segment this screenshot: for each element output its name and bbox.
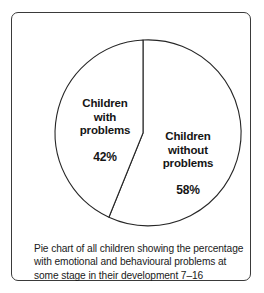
- pie-label-children-without-problems: Children without problems: [140, 130, 236, 171]
- figure-frame: Children with problems 42% Children with…: [11, 12, 251, 281]
- pie-label-line: problems: [59, 124, 151, 138]
- pie-percent-children-without-problems: 58%: [140, 184, 236, 198]
- pie-label-line: Children: [140, 130, 236, 144]
- figure-caption-line: with emotional and behavioural problems …: [34, 255, 252, 268]
- figure-caption-line: Pie chart of all children showing the pe…: [34, 242, 252, 255]
- pie-label-line: with: [59, 111, 151, 125]
- figure-caption-line: some stage in their development 7–16: [34, 269, 252, 282]
- pie-label-children-with-problems: Children with problems: [59, 97, 151, 138]
- pie-label-line: problems: [140, 157, 236, 171]
- pie-chart: Children with problems 42% Children with…: [12, 13, 264, 238]
- pie-percent-children-with-problems: 42%: [59, 151, 151, 165]
- pie-label-line: Children: [59, 97, 151, 111]
- pie-label-line: without: [140, 144, 236, 158]
- figure-caption: Pie chart of all children showing the pe…: [34, 242, 252, 282]
